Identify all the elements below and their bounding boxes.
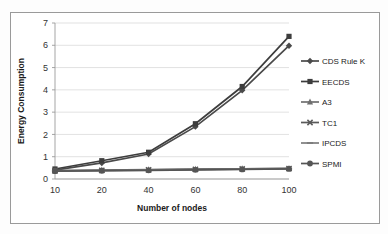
legend-label: SPMI <box>322 160 342 169</box>
data-point-marker <box>193 167 199 173</box>
legend-label: EECDS <box>322 78 350 87</box>
energy-consumption-line-chart: 01234567 1020406080100 CDS Rule KEECDSA3… <box>11 13 379 223</box>
x-tick-label: 100 <box>281 185 296 195</box>
y-tick-label: 2 <box>43 130 48 140</box>
legend-label: CDS Rule K <box>322 57 366 66</box>
legend-item-spmi[interactable]: SPMI <box>301 160 342 169</box>
data-point-marker <box>99 168 105 174</box>
data-point-marker <box>52 168 58 174</box>
series-spmi <box>52 166 292 174</box>
plot-area: 01234567 1020406080100 CDS Rule KEECDSA3… <box>11 13 379 223</box>
y-tick-label: 7 <box>43 18 48 28</box>
y-tick-label: 6 <box>43 40 48 50</box>
x-tick-label: 80 <box>237 185 247 195</box>
y-tick-label: 5 <box>43 63 48 73</box>
y-tick-label: 4 <box>43 85 48 95</box>
legend-swatch-marker <box>307 79 312 84</box>
x-tick-label: 60 <box>190 185 200 195</box>
legend-swatch-marker <box>307 58 313 64</box>
chart-figure: 01234567 1020406080100 CDS Rule KEECDSA3… <box>0 0 388 234</box>
data-point-marker <box>146 150 151 155</box>
legend-label: IPCDS <box>322 139 346 148</box>
series-eecds <box>52 34 291 172</box>
chart-border: 01234567 1020406080100 CDS Rule KEECDSA3… <box>10 12 380 224</box>
legend-item-cds-rule-k[interactable]: CDS Rule K <box>301 57 366 66</box>
legend-item-ipcds[interactable]: IPCDS <box>301 139 346 148</box>
legend-item-eecds[interactable]: EECDS <box>301 78 350 87</box>
legend-item-a3[interactable]: A3 <box>301 98 332 107</box>
x-tick-label: 20 <box>97 185 107 195</box>
data-point-marker <box>146 167 152 173</box>
legend-label: TC1 <box>322 119 338 128</box>
x-tick-label: 40 <box>144 185 154 195</box>
series-line <box>55 169 289 171</box>
x-axis-title: Number of nodes <box>137 203 207 213</box>
series-line <box>55 36 289 169</box>
y-tick-label: 0 <box>43 174 48 184</box>
y-tick-labels: 01234567 <box>43 18 48 184</box>
data-point-marker <box>239 167 245 173</box>
chart-legend: CDS Rule KEECDSA3TC1IPCDSSPMI <box>301 57 366 169</box>
y-tick-label: 3 <box>43 107 48 117</box>
data-series-group <box>52 34 292 174</box>
y-axis-title: Energy Consumption <box>16 58 26 144</box>
x-tick-label: 10 <box>50 185 60 195</box>
data-point-marker <box>286 166 292 172</box>
series-line <box>55 46 289 170</box>
legend-swatch-marker <box>307 142 313 144</box>
data-point-marker <box>99 158 104 163</box>
data-point-marker <box>193 121 198 126</box>
legend-label: A3 <box>322 98 332 107</box>
y-tick-label: 1 <box>43 152 48 162</box>
series-cds-rule-k <box>52 43 292 174</box>
legend-item-tc1[interactable]: TC1 <box>301 119 338 128</box>
data-point-marker <box>286 34 291 39</box>
x-tick-labels: 1020406080100 <box>50 185 297 195</box>
grid-lines <box>52 23 289 179</box>
data-point-marker <box>240 84 245 89</box>
legend-swatch-marker <box>307 161 313 167</box>
